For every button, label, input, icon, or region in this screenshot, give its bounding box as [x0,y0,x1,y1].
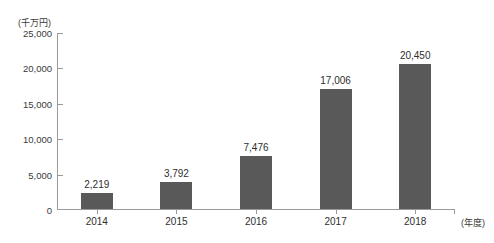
bar[interactable] [81,193,113,209]
bar[interactable] [399,64,431,209]
y-axis-tick-labels: 25,000 20,000 15,000 10,000 5,000 0 [0,33,52,210]
bar-value-label: 17,006 [320,75,351,86]
x-axis-unit-label: (年度) [461,216,485,229]
x-axis-category-label: 2014 [86,216,108,227]
y-axis-tick [58,68,63,69]
y-axis-tick [58,175,63,176]
x-axis-tick [176,210,177,214]
y-tick-label: 15,000 [23,98,52,109]
x-axis-tick [256,210,257,214]
x-axis-category-label: 2017 [324,216,346,227]
y-axis-tick [58,104,63,105]
y-tick-label: 5,000 [28,169,52,180]
y-tick-label: 10,000 [23,134,52,145]
x-axis-tick [336,210,337,214]
bar[interactable] [320,89,352,209]
bar[interactable] [240,156,272,209]
bar-value-label: 2,219 [84,179,109,190]
x-axis-category-label: 2015 [165,216,187,227]
bar-value-label: 3,792 [164,168,189,179]
y-axis-line [57,33,58,210]
y-axis-tick [58,33,63,34]
y-tick-label: 0 [47,205,52,216]
plot-area: 2,219 3,792 7,476 17,006 20,450 2014 201… [57,33,455,210]
bar-value-label: 7,476 [243,142,268,153]
x-axis-tick [415,210,416,214]
bar-value-label: 20,450 [400,50,431,61]
y-tick-label: 25,000 [23,28,52,39]
x-axis-tick [97,210,98,214]
y-axis-tick [58,139,63,140]
bar-chart: (千万円) 25,000 20,000 15,000 10,000 5,000 … [0,0,494,243]
x-axis-tick [454,210,455,214]
x-axis-category-label: 2016 [245,216,267,227]
x-axis-category-label: 2018 [404,216,426,227]
y-tick-label: 20,000 [23,63,52,74]
bar[interactable] [160,182,192,209]
